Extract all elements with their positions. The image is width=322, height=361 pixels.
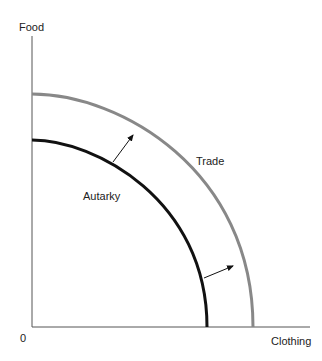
autarky-label: Autarky (83, 190, 121, 202)
shift-arrow-upper (113, 135, 133, 162)
y-axis-label: Food (19, 21, 44, 33)
shift-arrow-lower (204, 266, 233, 278)
ppf-diagram: Food Clothing 0 Trade Autarky (0, 0, 322, 361)
trade-curve (32, 94, 253, 327)
trade-label: Trade (196, 155, 224, 167)
autarky-curve (32, 140, 207, 327)
origin-label: 0 (20, 332, 26, 344)
x-axis-label: Clothing (271, 335, 311, 347)
